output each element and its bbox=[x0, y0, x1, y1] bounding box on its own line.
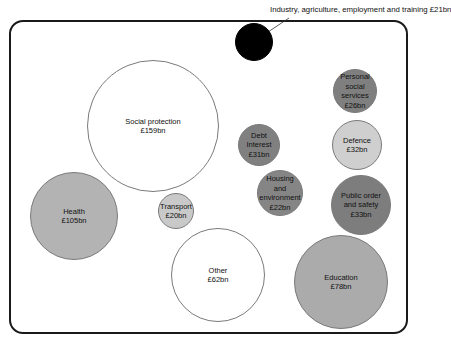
callout-line bbox=[268, 18, 289, 32]
bubble-social-protection: Social protection £159bn bbox=[87, 60, 219, 192]
bubble-label: Defence £32bn bbox=[343, 136, 371, 155]
bubble-housing-and-environment: Housing and environment £22bn bbox=[257, 170, 303, 216]
bubble-label: Debt Interest £31bn bbox=[246, 131, 271, 160]
bubble-defence: Defence £32bn bbox=[332, 120, 382, 170]
bubble-label: Other £62bn bbox=[208, 266, 229, 285]
callout-label: Industry, agriculture, employment and tr… bbox=[270, 5, 451, 14]
bubble-label: Housing and environment £22bn bbox=[259, 174, 300, 212]
bubble-education: Education £78bn bbox=[294, 235, 388, 329]
bubble-label: Health £105bn bbox=[61, 207, 86, 226]
bubble-label: Education £78bn bbox=[324, 273, 357, 292]
bubble-label: Transport £20bn bbox=[160, 202, 192, 221]
bubble-industry-agriculture-employment-and-training bbox=[235, 23, 273, 61]
bubble-label: Social protection £159bn bbox=[125, 117, 180, 136]
bubble-other: Other £62bn bbox=[171, 228, 265, 322]
bubble-label: Personal social services £26bn bbox=[340, 72, 370, 110]
bubble-debt-interest: Debt Interest £31bn bbox=[238, 124, 280, 166]
bubble-label: Public order and safety £33bn bbox=[341, 191, 381, 220]
bubble-transport: Transport £20bn bbox=[158, 193, 194, 229]
bubble-health: Health £105bn bbox=[30, 172, 118, 260]
bubble-public-order-and-safety: Public order and safety £33bn bbox=[331, 175, 391, 235]
bubble-personal-social-services: Personal social services £26bn bbox=[333, 69, 377, 113]
